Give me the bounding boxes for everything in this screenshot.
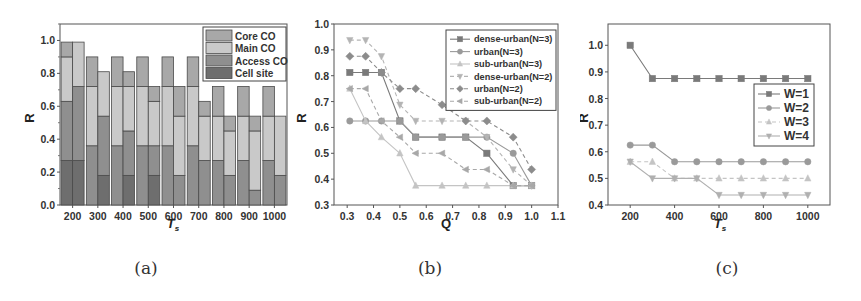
y-tick-label: 0.8 (588, 93, 603, 105)
data-point-marker (782, 159, 788, 165)
legend: Core COMain COAccess COCell site (203, 27, 288, 81)
legend: W=1W=2W=3W=4 (754, 84, 814, 146)
x-tick-label: 0.5 (393, 210, 408, 222)
data-point-marker (760, 75, 766, 81)
y-tick-label: 0.6 (588, 146, 603, 158)
x-tick-label: 0.4 (366, 210, 381, 222)
legend-label: Access CO (235, 56, 288, 67)
data-point-marker (347, 118, 353, 124)
y-tick-label: 0.6 (314, 121, 329, 133)
data-point-marker (805, 159, 811, 165)
bar-segment-main-co (61, 57, 73, 101)
legend-label: W=2 (784, 101, 809, 115)
data-point-marker (738, 159, 744, 165)
legend-swatch (206, 68, 232, 79)
bar-segment-cell-site (61, 161, 73, 205)
chart-c-panel: 20040060080010000.40.50.60.70.80.91.0TsR… (580, 0, 861, 240)
data-point-marker (738, 75, 744, 81)
bar-segment-cell-site (73, 161, 85, 205)
caption-a: (a) (116, 258, 176, 278)
x-tick-label: 1.0 (524, 210, 539, 222)
data-point-marker (362, 69, 368, 75)
bar-segment-main-co (73, 42, 85, 86)
x-tick-label: 0.6 (419, 210, 434, 222)
y-tick-label: 0.4 (588, 199, 603, 211)
legend-label: W=1 (784, 87, 809, 101)
bar-segment-core-co (263, 87, 275, 117)
y-tick-label: 0.6 (40, 100, 55, 112)
data-point-marker (694, 159, 700, 165)
x-axis-label: Q (441, 216, 451, 231)
y-tick-label: 0.0 (40, 199, 55, 211)
bar-segment-core-co (137, 57, 149, 87)
legend-label: sub-urban(N=2) (474, 96, 542, 106)
data-point-marker (439, 134, 445, 140)
legend-swatch (206, 55, 232, 66)
y-tick-label: 0.4 (40, 133, 55, 145)
bar-segment-access-co (249, 190, 261, 205)
x-tick-label: 1000 (263, 210, 287, 222)
bar-segment-core-co (212, 87, 224, 117)
bar-segment-main-co (274, 116, 286, 175)
y-tick-label: 0.8 (40, 67, 55, 79)
legend-label: W=4 (784, 129, 809, 143)
data-point-marker (463, 134, 469, 140)
bar-segment-access-co (148, 146, 160, 176)
bar-segment-access-co (86, 146, 98, 205)
bar-segment-access-co (123, 131, 135, 175)
bar-segment-main-co (98, 72, 110, 116)
bar-segment-main-co (224, 131, 236, 175)
data-point-marker (760, 159, 766, 165)
bar-segment-access-co (162, 146, 174, 205)
y-tick-label: 0.3 (314, 199, 329, 211)
y-tick-label: 0.5 (314, 147, 329, 159)
x-tick-label: 500 (140, 210, 158, 222)
data-point-marker (457, 49, 462, 54)
bar-segment-main-co (187, 87, 199, 146)
data-point-marker (766, 91, 771, 96)
bar-segment-main-co (148, 101, 160, 145)
x-tick-label: 0.9 (498, 210, 513, 222)
legend-label: urban(N=3) (474, 47, 523, 57)
data-point-marker (627, 142, 633, 148)
bar-segment-main-co (162, 87, 174, 146)
bar-segment-core-co (86, 57, 98, 87)
chart-a-stacked-bar: 20030040050060070080090010000.00.20.40.6… (0, 0, 290, 240)
legend-swatch (206, 43, 232, 54)
bar-segment-main-co (137, 87, 149, 146)
bar-segment-cell-site (123, 175, 135, 205)
x-tick-label: 200 (621, 210, 639, 222)
x-tick-label: 200 (64, 210, 82, 222)
y-tick-label: 0.7 (314, 96, 329, 108)
caption-b: (b) (400, 258, 460, 278)
bar-segment-cell-site (98, 175, 110, 205)
x-tick-label: 0.3 (340, 210, 355, 222)
legend-label: Cell site (235, 68, 274, 79)
x-tick-label: 400 (114, 210, 132, 222)
y-tick-label: 1.0 (588, 39, 603, 51)
bar-segment-core-co (199, 101, 211, 116)
bar-segment-access-co (174, 175, 186, 205)
bar-segment-core-co (249, 116, 261, 131)
data-point-marker (457, 37, 462, 42)
bar-segment-access-co (212, 161, 224, 205)
bar-segment-main-co (112, 87, 124, 146)
x-tick-label: 800 (755, 210, 773, 222)
data-point-marker (671, 75, 677, 81)
bar-segment-core-co (61, 42, 73, 57)
legend-label: sub-urban(N=3) (474, 59, 542, 69)
bar-segment-main-co (263, 116, 275, 160)
x-tick-label: 800 (215, 210, 233, 222)
bar-segment-access-co (61, 101, 73, 160)
y-tick-label: 0.5 (588, 172, 603, 184)
bar-segment-core-co (187, 57, 199, 87)
bar-segment-access-co (137, 146, 149, 205)
y-tick-label: 0.9 (588, 66, 603, 78)
chart-b-panel: 0.30.40.50.60.70.80.91.01.10.30.40.50.60… (290, 0, 580, 240)
x-tick-label: 1000 (796, 210, 820, 222)
data-point-marker (694, 75, 700, 81)
x-tick-label: 400 (666, 210, 684, 222)
bar-segment-main-co (123, 87, 135, 131)
bar-segment-core-co (224, 116, 236, 131)
y-tick-label: 0.2 (40, 166, 55, 178)
